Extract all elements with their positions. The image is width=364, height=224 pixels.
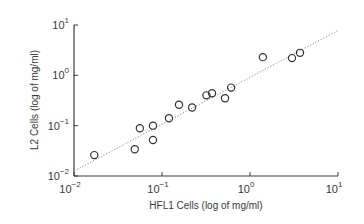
data-point-marker (288, 54, 295, 61)
fit-line (74, 30, 338, 171)
x-tick-label: 10−1 (147, 180, 169, 195)
scatter-chart: 10−210−1100101 10−210−1100101 HFL1 Cells… (0, 0, 364, 224)
data-point-marker (149, 136, 156, 143)
x-tick-label: 10−2 (59, 180, 81, 195)
axes (74, 25, 338, 176)
data-point-marker (175, 101, 182, 108)
data-point-marker (91, 152, 98, 159)
y-tick-label: 101 (52, 16, 69, 31)
y-tick-label: 10−1 (48, 117, 70, 132)
data-point-marker (136, 125, 143, 132)
y-tick-label: 10−2 (48, 167, 70, 182)
data-point-marker (259, 54, 266, 61)
regression-line (74, 30, 338, 171)
data-point-marker (165, 115, 172, 122)
data-point-marker (131, 146, 138, 153)
data-point-marker (221, 95, 228, 102)
x-tick-label: 100 (238, 180, 255, 195)
y-tick-label: 100 (52, 66, 69, 81)
data-points (91, 49, 304, 158)
x-axis-title: HFL1 Cells (log of mg/ml) (149, 200, 262, 211)
x-tick-label: 101 (326, 180, 343, 195)
data-point-marker (149, 122, 156, 129)
data-point-marker (189, 104, 196, 111)
y-axis-title: L2 Cells (log of mg/ml) (29, 50, 40, 150)
